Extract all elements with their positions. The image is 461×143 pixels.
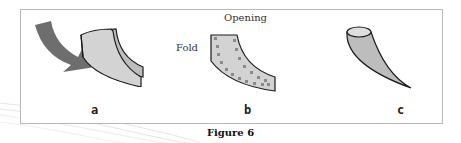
figure-caption: Figure 6 (0, 127, 461, 138)
fold-annotation: Fold (176, 42, 198, 53)
panel-c-label: c (397, 103, 404, 117)
panel-a-label: a (91, 103, 98, 117)
panel-a-folding-sheet-illustration (33, 17, 158, 87)
opening-annotation: Opening (224, 12, 267, 23)
panel-b-label: b (244, 103, 251, 117)
figure-frame: a Opening Fold b c (20, 9, 443, 124)
panel-c-cone-shape-illustration (345, 24, 415, 92)
panel-b-folded-shape-illustration (209, 33, 279, 93)
